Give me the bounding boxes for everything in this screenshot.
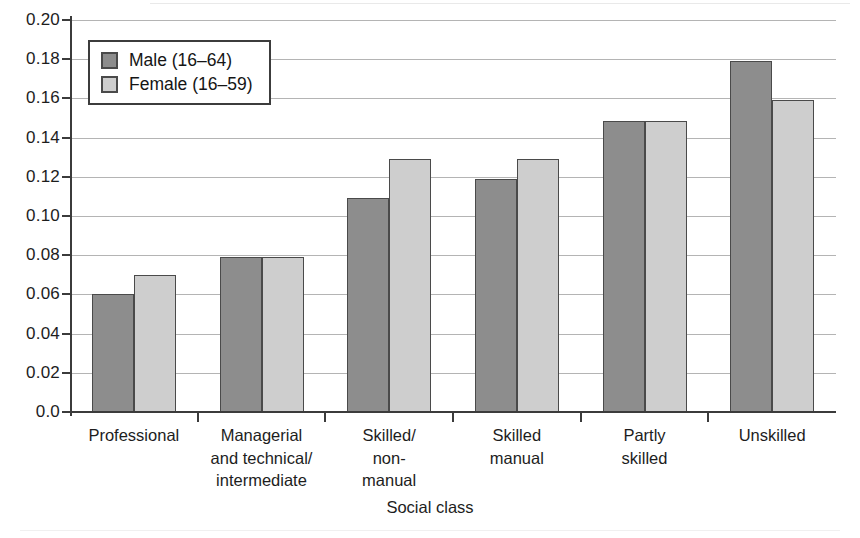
y-axis-tick-mark xyxy=(62,254,71,256)
bar-female xyxy=(389,159,431,412)
x-axis-tick-mark xyxy=(452,412,454,422)
y-axis-tick-mark xyxy=(62,19,71,21)
legend-swatch-male-icon xyxy=(101,52,118,69)
x-axis-category-labels: ProfessionalManagerialand technical/inte… xyxy=(70,424,836,504)
y-axis-tick-label: 0.0 xyxy=(2,403,60,420)
category-label: Skilledmanual xyxy=(453,424,581,469)
x-axis-line xyxy=(62,411,836,413)
category-label-line: Professional xyxy=(70,424,198,447)
bar-male xyxy=(603,121,645,412)
gridline xyxy=(70,255,836,256)
legend-swatch-female-icon xyxy=(101,76,118,93)
y-axis-tick-label: 0.12 xyxy=(2,168,60,185)
bar-male xyxy=(347,198,389,412)
bar-female xyxy=(772,100,814,412)
y-axis-tick-mark xyxy=(62,333,71,335)
chart-legend: Male (16–64) Female (16–59) xyxy=(88,40,271,105)
bar-male xyxy=(475,179,517,412)
y-axis-tick-mark xyxy=(62,372,71,374)
category-label: Unskilled xyxy=(708,424,836,447)
gridline xyxy=(70,294,836,295)
category-label: Professional xyxy=(70,424,198,447)
x-axis-tick-mark xyxy=(197,412,199,422)
category-label-line: Unskilled xyxy=(708,424,836,447)
category-label-line: intermediate xyxy=(198,469,326,492)
bar-male xyxy=(220,257,262,412)
y-axis-tick-label: 0.18 xyxy=(2,50,60,67)
category-label: Skilled/non-manual xyxy=(325,424,453,492)
category-label-line: Skilled/ xyxy=(325,424,453,447)
bar-female xyxy=(262,257,304,412)
gridline xyxy=(70,216,836,217)
gridline xyxy=(70,20,836,21)
category-label-line: and technical/ xyxy=(198,447,326,470)
x-axis-tick-mark xyxy=(707,412,709,422)
y-axis-tick-mark xyxy=(62,411,71,413)
category-label-line: skilled xyxy=(581,447,709,470)
category-label-line: Skilled xyxy=(453,424,581,447)
y-axis-tick-mark xyxy=(62,58,71,60)
legend-label-female: Female (16–59) xyxy=(129,75,253,94)
x-axis-tick-mark xyxy=(580,412,582,422)
category-label-line: Managerial xyxy=(198,424,326,447)
x-axis-tick-mark xyxy=(324,412,326,422)
legend-item-female: Female (16–59) xyxy=(101,72,253,96)
gridline xyxy=(70,334,836,335)
y-axis-tick-label: 0.06 xyxy=(2,285,60,302)
y-axis-tick-mark xyxy=(62,293,71,295)
y-axis-tick-mark xyxy=(62,176,71,178)
category-label-line: Partly xyxy=(581,424,709,447)
scan-artifact-top xyxy=(150,3,850,4)
y-axis-tick-label: 0.14 xyxy=(2,129,60,146)
bar-female xyxy=(517,159,559,412)
category-label-line: manual xyxy=(325,469,453,492)
y-axis-tick-mark xyxy=(62,215,71,217)
y-axis-tick-mark xyxy=(62,97,71,99)
scan-artifact-bottom xyxy=(20,530,840,531)
category-label-line: non- xyxy=(325,447,453,470)
y-axis-tick-label: 0.20 xyxy=(2,11,60,28)
category-label: Managerialand technical/intermediate xyxy=(198,424,326,492)
bar-female xyxy=(134,275,176,412)
bar-female xyxy=(645,121,687,412)
bar-male xyxy=(92,294,134,412)
y-axis-tick-label: 0.04 xyxy=(2,325,60,342)
y-axis-tick-label: 0.16 xyxy=(2,89,60,106)
category-label: Partlyskilled xyxy=(581,424,709,469)
legend-item-male: Male (16–64) xyxy=(101,48,253,72)
y-axis-tick-labels: 0.200.180.160.140.120.100.080.060.040.02… xyxy=(0,0,60,430)
bar-chart: 0.200.180.160.140.120.100.080.060.040.02… xyxy=(0,0,860,538)
gridline xyxy=(70,373,836,374)
gridline xyxy=(70,138,836,139)
y-axis-tick-label: 0.08 xyxy=(2,246,60,263)
y-axis-tick-mark xyxy=(62,137,71,139)
bar-male xyxy=(730,61,772,412)
category-label-line: manual xyxy=(453,447,581,470)
x-axis-title: Social class xyxy=(0,497,860,517)
y-axis-tick-label: 0.02 xyxy=(2,364,60,381)
gridline xyxy=(70,177,836,178)
legend-label-male: Male (16–64) xyxy=(129,51,232,70)
y-axis-tick-label: 0.10 xyxy=(2,207,60,224)
